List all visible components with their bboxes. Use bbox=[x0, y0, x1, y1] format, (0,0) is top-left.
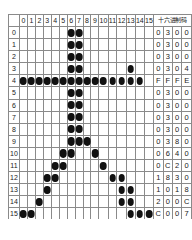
bit-cell-off[interactable] bbox=[117, 160, 126, 172]
bit-cell-off[interactable] bbox=[126, 111, 135, 123]
bit-cell-off[interactable] bbox=[59, 196, 67, 208]
bit-cell-off[interactable] bbox=[20, 111, 28, 123]
bit-cell-off[interactable] bbox=[20, 123, 28, 135]
bit-cell-on[interactable] bbox=[75, 87, 83, 99]
bit-cell-off[interactable] bbox=[27, 135, 35, 147]
bit-cell-off[interactable] bbox=[59, 172, 67, 184]
bit-cell-off[interactable] bbox=[91, 39, 99, 51]
bit-cell-off[interactable] bbox=[35, 208, 43, 219]
bit-cell-off[interactable] bbox=[51, 63, 59, 75]
bit-cell-off[interactable] bbox=[75, 196, 83, 208]
bit-cell-off[interactable] bbox=[27, 63, 35, 75]
bit-cell-off[interactable] bbox=[67, 196, 75, 208]
bit-cell-off[interactable] bbox=[135, 111, 144, 123]
bit-cell-off[interactable] bbox=[20, 63, 28, 75]
bit-cell-off[interactable] bbox=[108, 147, 117, 159]
bit-cell-on[interactable] bbox=[144, 208, 153, 219]
bit-cell-off[interactable] bbox=[126, 99, 135, 111]
bit-cell-off[interactable] bbox=[144, 87, 153, 99]
bit-cell-on[interactable] bbox=[99, 160, 108, 172]
bit-cell-off[interactable] bbox=[27, 51, 35, 63]
bit-cell-off[interactable] bbox=[117, 208, 126, 219]
bit-cell-off[interactable] bbox=[108, 87, 117, 99]
bit-cell-off[interactable] bbox=[126, 135, 135, 147]
bit-cell-off[interactable] bbox=[35, 147, 43, 159]
bit-cell-off[interactable] bbox=[75, 160, 83, 172]
bit-cell-off[interactable] bbox=[144, 75, 153, 87]
bit-cell-off[interactable] bbox=[35, 51, 43, 63]
bit-cell-off[interactable] bbox=[43, 208, 51, 219]
bit-cell-off[interactable] bbox=[83, 27, 91, 39]
bit-cell-off[interactable] bbox=[20, 87, 28, 99]
bit-cell-off[interactable] bbox=[99, 63, 108, 75]
bit-cell-off[interactable] bbox=[91, 111, 99, 123]
bit-cell-on[interactable] bbox=[51, 160, 59, 172]
bit-cell-off[interactable] bbox=[91, 208, 99, 219]
bit-cell-off[interactable] bbox=[59, 208, 67, 219]
bit-cell-off[interactable] bbox=[75, 172, 83, 184]
bit-cell-off[interactable] bbox=[117, 51, 126, 63]
bit-cell-off[interactable] bbox=[59, 135, 67, 147]
bit-cell-off[interactable] bbox=[135, 63, 144, 75]
bit-cell-off[interactable] bbox=[144, 160, 153, 172]
bit-cell-off[interactable] bbox=[99, 111, 108, 123]
bit-cell-off[interactable] bbox=[20, 196, 28, 208]
bit-cell-off[interactable] bbox=[108, 27, 117, 39]
bit-cell-on[interactable] bbox=[126, 75, 135, 87]
bit-cell-off[interactable] bbox=[83, 111, 91, 123]
bit-cell-off[interactable] bbox=[117, 123, 126, 135]
bit-cell-off[interactable] bbox=[83, 39, 91, 51]
bit-cell-off[interactable] bbox=[43, 123, 51, 135]
bit-cell-on[interactable] bbox=[67, 135, 75, 147]
bit-cell-off[interactable] bbox=[59, 51, 67, 63]
bit-cell-off[interactable] bbox=[59, 111, 67, 123]
bit-cell-off[interactable] bbox=[43, 160, 51, 172]
bit-cell-off[interactable] bbox=[59, 184, 67, 196]
bit-cell-off[interactable] bbox=[91, 172, 99, 184]
bit-cell-off[interactable] bbox=[43, 196, 51, 208]
bit-cell-off[interactable] bbox=[83, 51, 91, 63]
bit-cell-on[interactable] bbox=[67, 27, 75, 39]
bit-cell-on[interactable] bbox=[67, 111, 75, 123]
bit-cell-off[interactable] bbox=[59, 123, 67, 135]
bit-cell-off[interactable] bbox=[91, 63, 99, 75]
bit-cell-off[interactable] bbox=[135, 135, 144, 147]
bit-cell-off[interactable] bbox=[51, 123, 59, 135]
bit-cell-off[interactable] bbox=[35, 99, 43, 111]
bit-cell-off[interactable] bbox=[51, 196, 59, 208]
bit-cell-off[interactable] bbox=[43, 63, 51, 75]
bit-cell-off[interactable] bbox=[75, 208, 83, 219]
bit-cell-off[interactable] bbox=[51, 111, 59, 123]
bit-cell-on[interactable] bbox=[75, 51, 83, 63]
bit-cell-off[interactable] bbox=[27, 99, 35, 111]
bit-cell-off[interactable] bbox=[108, 51, 117, 63]
bit-cell-off[interactable] bbox=[126, 27, 135, 39]
bit-cell-off[interactable] bbox=[126, 51, 135, 63]
bit-cell-off[interactable] bbox=[144, 63, 153, 75]
bit-cell-off[interactable] bbox=[59, 63, 67, 75]
bit-cell-off[interactable] bbox=[99, 208, 108, 219]
bit-cell-off[interactable] bbox=[67, 208, 75, 219]
bit-cell-off[interactable] bbox=[83, 87, 91, 99]
bit-cell-off[interactable] bbox=[51, 184, 59, 196]
bit-cell-off[interactable] bbox=[135, 99, 144, 111]
bit-cell-on[interactable] bbox=[75, 135, 83, 147]
bit-cell-off[interactable] bbox=[91, 123, 99, 135]
bit-cell-on[interactable] bbox=[67, 99, 75, 111]
bit-cell-off[interactable] bbox=[99, 135, 108, 147]
bit-cell-off[interactable] bbox=[135, 51, 144, 63]
bit-cell-on[interactable] bbox=[75, 63, 83, 75]
bit-cell-on[interactable] bbox=[67, 75, 75, 87]
bit-cell-off[interactable] bbox=[35, 123, 43, 135]
bit-cell-off[interactable] bbox=[59, 27, 67, 39]
bit-cell-on[interactable] bbox=[75, 27, 83, 39]
bit-cell-off[interactable] bbox=[144, 135, 153, 147]
bit-cell-off[interactable] bbox=[144, 51, 153, 63]
bit-cell-off[interactable] bbox=[27, 27, 35, 39]
bit-cell-off[interactable] bbox=[27, 184, 35, 196]
bit-cell-off[interactable] bbox=[51, 135, 59, 147]
bit-cell-off[interactable] bbox=[144, 172, 153, 184]
bit-cell-off[interactable] bbox=[51, 27, 59, 39]
bit-cell-off[interactable] bbox=[35, 135, 43, 147]
bit-cell-off[interactable] bbox=[144, 123, 153, 135]
